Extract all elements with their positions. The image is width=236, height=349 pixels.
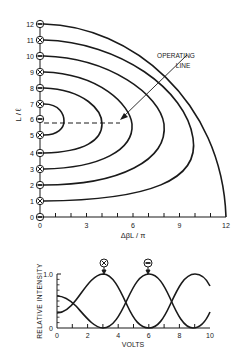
curve-11-1 xyxy=(44,40,194,201)
y-tick-1: 1 xyxy=(30,198,34,205)
marker-cross-5 xyxy=(36,131,43,138)
marker-bar-12 xyxy=(36,20,43,27)
contour-curves xyxy=(44,24,226,217)
y-tick-9: 9 xyxy=(30,69,34,76)
bottom-x-tick-0: 0 xyxy=(55,332,59,339)
marker-bar-0 xyxy=(36,213,43,220)
marker-cross-1 xyxy=(36,197,43,204)
y-tick-7: 7 xyxy=(30,101,34,108)
x-tick-12: 12 xyxy=(222,222,230,229)
bottom-chart xyxy=(57,274,210,328)
curve-10-2 xyxy=(44,56,164,185)
bottom-y-tick-1: 1.0 xyxy=(43,271,53,278)
marker-bar-8 xyxy=(36,84,43,91)
top-x-axis-label: ΔβL / π xyxy=(121,231,146,240)
bottom-marker-bar xyxy=(144,259,152,274)
top-y-axis-label: L / ℓ xyxy=(14,108,23,122)
y-tick-5: 5 xyxy=(30,132,34,139)
bottom-x-axis-label: VOLTS xyxy=(122,341,145,348)
curve-8-4 xyxy=(44,88,102,153)
x-tick-0: 0 xyxy=(38,222,42,229)
marker-cross-7 xyxy=(36,100,43,107)
y-tick-2: 2 xyxy=(30,182,34,189)
arrowhead-icon xyxy=(120,113,128,120)
marker-cross-11 xyxy=(36,36,43,43)
annotation-line: LINE xyxy=(176,62,191,69)
marker-bar-2 xyxy=(36,181,43,188)
top-chart xyxy=(40,24,226,217)
bottom-marker-cross xyxy=(100,259,108,274)
top-y-tick-labels: 0 1 2 3 4 5 6 7 8 9 10 11 12 xyxy=(26,21,34,221)
bottom-x-tick-8: 8 xyxy=(177,332,181,339)
x-tick-6: 6 xyxy=(131,222,135,229)
x-tick-9: 9 xyxy=(178,222,182,229)
top-x-tick-labels: 0 3 6 9 12 xyxy=(38,222,230,229)
marker-bar-6 xyxy=(36,115,43,122)
y-tick-3: 3 xyxy=(30,166,34,173)
x-tick-3: 3 xyxy=(85,222,89,229)
curve-9-3 xyxy=(44,72,132,169)
bottom-y-tick-0: 0 xyxy=(49,325,53,332)
y-tick-11: 11 xyxy=(27,37,34,44)
y-tick-4: 4 xyxy=(30,150,34,157)
bottom-y-axis-label: RELATIVE INTENSITY xyxy=(36,263,43,339)
series-cross-curve xyxy=(57,274,210,328)
y-tick-0: 0 xyxy=(30,214,34,221)
series-bar-curve xyxy=(57,274,210,328)
marker-bar-4 xyxy=(36,149,43,156)
annotation-operating: OPERATING xyxy=(157,52,195,59)
curve-7-5 xyxy=(44,104,64,135)
y-tick-8: 8 xyxy=(30,85,34,92)
curve-12-0 xyxy=(44,24,226,217)
y-tick-6: 6 xyxy=(30,116,34,123)
bottom-x-tick-4: 4 xyxy=(116,332,120,339)
y-tick-12: 12 xyxy=(26,21,34,28)
bottom-x-tick-labels: 0 2 4 6 8 10 xyxy=(55,332,214,339)
y-tick-10: 10 xyxy=(26,53,34,60)
marker-cross-9 xyxy=(36,68,43,75)
marker-cross-3 xyxy=(36,165,43,172)
marker-bar-10 xyxy=(36,52,43,59)
bottom-x-tick-2: 2 xyxy=(86,332,90,339)
bottom-x-tick-6: 6 xyxy=(147,332,151,339)
diagram-canvas: 0 1 2 3 4 5 6 7 8 9 10 11 12 L / ℓ 0 3 6… xyxy=(0,0,236,349)
bottom-x-tick-10: 10 xyxy=(206,332,214,339)
